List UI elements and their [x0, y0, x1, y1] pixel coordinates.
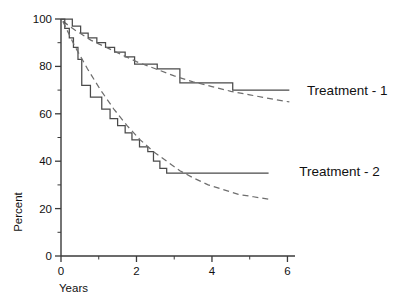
y-tick-label: 0	[46, 250, 52, 262]
x-tick-label: 6	[284, 265, 290, 277]
y-tick-label: 100	[33, 13, 52, 25]
series-step-curve	[61, 19, 269, 173]
y-tick-label: 80	[39, 60, 52, 72]
survival-chart: 0204060801000246YearsPercentTreatment - …	[0, 0, 407, 303]
series-step-curve	[61, 19, 289, 90]
series-label: Treatment - 1	[307, 83, 388, 98]
x-tick-label: 4	[209, 265, 216, 277]
x-tick-label: 2	[133, 265, 139, 277]
x-tick-label: 0	[58, 265, 64, 277]
y-tick-label: 20	[39, 203, 52, 215]
chart-canvas: 0204060801000246YearsPercentTreatment - …	[0, 0, 407, 303]
y-tick-label: 60	[39, 108, 52, 120]
y-tick-label: 40	[39, 155, 52, 167]
series-label: Treatment - 2	[299, 164, 380, 179]
x-axis-title: Years	[59, 282, 88, 294]
y-axis-title: Percent	[12, 191, 24, 231]
